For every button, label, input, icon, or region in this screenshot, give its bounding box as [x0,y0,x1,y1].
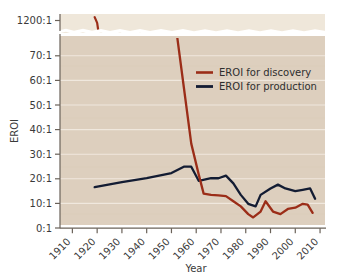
y-tick-label-20: 20:1 [30,173,52,184]
plot-background [60,36,325,225]
y-tick-label-40: 40:1 [30,124,52,135]
y-tick-label-70: 70:1 [30,50,52,61]
x-axis-title: Year [184,263,207,274]
y-tick-label-50: 50:1 [30,100,52,111]
legend-label-discovery: EROI for discovery [219,67,311,78]
y-tick-label-30: 30:1 [30,149,52,160]
chart-canvas: 1200:1 70:1 60:1 50:1 40:1 30:1 20:1 10:… [0,0,342,280]
y-tick-label-0: 0:1 [36,223,52,234]
y-tick-label-1200: 1200:1 [17,15,52,26]
legend-label-production: EROI for production [219,81,317,92]
y-tick-label-60: 60:1 [30,75,52,86]
y-tick-label-10: 10:1 [30,198,52,209]
eroi-chart: 1200:1 70:1 60:1 50:1 40:1 30:1 20:1 10:… [0,0,342,280]
y-axis-title: EROI [9,119,20,143]
